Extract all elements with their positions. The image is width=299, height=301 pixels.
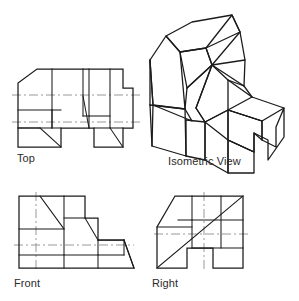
iso-center-leg-top — [205, 110, 262, 152]
iso-center-leg-edge-3 — [186, 156, 205, 160]
top-view-outline — [18, 69, 133, 147]
iso-mid-rib-edge-1 — [196, 65, 212, 108]
iso-top-face-upper-left — [166, 15, 240, 52]
iso-left-block-edge-3 — [150, 105, 185, 109]
right-view-diagonal-edge — [157, 196, 243, 268]
iso-left-block-edge-2 — [150, 105, 152, 146]
iso-right-wedge-edge-2 — [212, 60, 245, 65]
iso-right-upper-wedge — [206, 15, 245, 86]
top-view-angled-edge-3 — [110, 128, 123, 147]
iso-right-slab-edge-2 — [228, 80, 252, 97]
front-view-angled-edge-3 — [124, 240, 134, 268]
iso-valley-face-left — [180, 48, 212, 88]
iso-center-leg-right — [228, 140, 254, 173]
iso-right-wedge-edge-1 — [212, 32, 240, 65]
front-view-angled-edge-2 — [85, 218, 98, 240]
isometric-view-geometry — [150, 15, 284, 173]
front-view-angled-edge-1 — [40, 196, 64, 229]
technical-drawing-sheet: Top Isometric View Front Right — [0, 0, 299, 301]
iso-center-leg-edge-1 — [196, 108, 205, 122]
front-view-geometry — [14, 192, 134, 272]
top-view-angled-edge-1 — [83, 96, 89, 128]
iso-right-slab-top — [228, 97, 284, 121]
drawing-canvas — [0, 0, 299, 301]
top-view-angled-edge-2 — [40, 128, 61, 147]
iso-valley-edge-1 — [185, 88, 187, 109]
iso-center-leg-left — [205, 122, 228, 173]
iso-center-leg-edge-2 — [186, 120, 205, 122]
top-view-geometry — [12, 69, 141, 147]
right-view-geometry — [154, 192, 248, 272]
